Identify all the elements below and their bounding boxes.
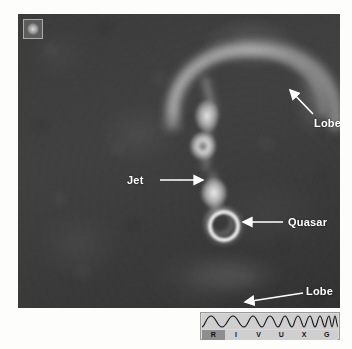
label-upper-lobe: Lobe xyxy=(314,117,340,129)
spectrum-band-labels: R I V U X G xyxy=(202,330,338,340)
spectrum-band-v[interactable]: V xyxy=(247,330,270,340)
upper-lobe-right-edge xyxy=(296,76,328,186)
label-lower-lobe: Lobe xyxy=(306,285,333,297)
label-quasar: Quasar xyxy=(288,216,327,228)
source-thumbnail-icon[interactable] xyxy=(23,19,43,39)
jet-knot-1 xyxy=(195,100,219,132)
spectrum-band-r[interactable]: R xyxy=(202,330,225,340)
electromagnetic-spectrum-indicator[interactable]: R I V U X G xyxy=(200,312,340,340)
spectrum-wave-icon xyxy=(202,314,338,329)
spectrum-band-u[interactable]: U xyxy=(270,330,293,340)
label-jet: Jet xyxy=(127,174,144,186)
spectrum-band-x[interactable]: X xyxy=(293,330,316,340)
spectrum-waveform xyxy=(202,314,338,329)
lower-lobe-emission xyxy=(168,246,298,304)
thumbnail-source-dot xyxy=(27,23,39,35)
jet-knot-2-core xyxy=(199,142,207,151)
quasar-core-halo xyxy=(202,204,238,240)
page-root: Lobe Jet Quasar Lobe R I V U X G xyxy=(0,0,352,349)
astronomy-image: Lobe Jet Quasar Lobe xyxy=(18,14,340,308)
spectrum-band-g[interactable]: G xyxy=(315,330,338,340)
spectrum-band-i[interactable]: I xyxy=(225,330,248,340)
